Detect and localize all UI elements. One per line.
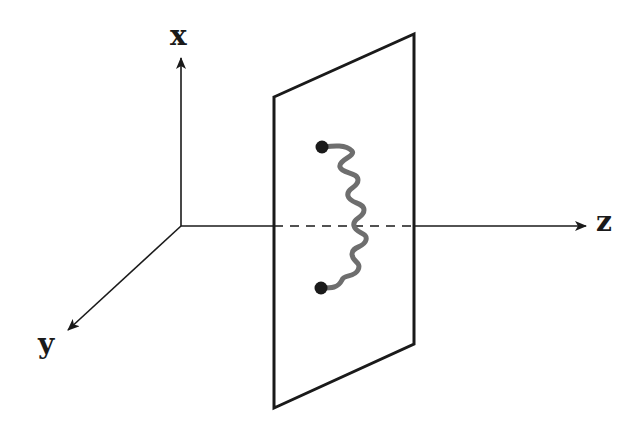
plane (274, 34, 414, 408)
z-axis-label: z (596, 208, 612, 236)
x-axis-label: x (170, 22, 187, 50)
y-axis (68, 226, 181, 330)
spring (315, 141, 367, 295)
spring-coil (321, 146, 366, 288)
spring-endpoint-bottom (315, 282, 328, 295)
spring-endpoint-top (316, 141, 329, 154)
diagram-canvas (0, 0, 644, 428)
y-axis-label: y (38, 330, 54, 358)
